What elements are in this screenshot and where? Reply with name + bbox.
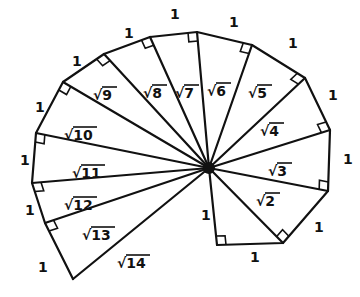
hypotenuse-label-sqrt-8: √8 xyxy=(143,85,167,101)
hypotenuse-label-sqrt-10: √10 xyxy=(64,127,97,143)
right-angle-marker-icon xyxy=(97,59,111,66)
unit-label: 1 xyxy=(35,99,45,115)
radial-line-12 xyxy=(45,168,209,223)
hypotenuse-label-sqrt-14: √14 xyxy=(117,255,150,271)
unit-edge-path xyxy=(32,32,330,279)
svg-text:√6: √6 xyxy=(207,83,226,99)
unit-label: 1 xyxy=(328,87,338,103)
unit-label: 1 xyxy=(288,35,298,51)
svg-text:√2: √2 xyxy=(256,193,275,209)
hypotenuse-label-sqrt-5: √5 xyxy=(248,85,272,101)
unit-label: 1 xyxy=(124,25,134,41)
hypotenuse-label-sqrt-13: √13 xyxy=(82,227,115,243)
hypotenuse-label-sqrt-9: √9 xyxy=(93,87,117,103)
svg-text:√7: √7 xyxy=(175,85,194,101)
hypotenuse-label-sqrt-11: √11 xyxy=(72,165,105,181)
hypotenuse-label-sqrt-7: √7 xyxy=(175,85,199,101)
svg-text:√13: √13 xyxy=(82,227,111,243)
svg-text:√8: √8 xyxy=(143,85,162,101)
unit-label: 1 xyxy=(72,53,82,69)
svg-text:√11: √11 xyxy=(72,165,101,181)
radial-line-5 xyxy=(209,45,252,168)
unit-label: 1 xyxy=(20,152,30,168)
svg-text:√10: √10 xyxy=(64,127,93,143)
unit-label: 1 xyxy=(201,207,211,223)
svg-text:√3: √3 xyxy=(268,163,287,179)
unit-label: 1 xyxy=(343,151,353,167)
hypotenuse-label-sqrt-3: √3 xyxy=(268,163,292,179)
right-angle-marker-icon xyxy=(319,180,328,189)
svg-text:√4: √4 xyxy=(260,123,279,139)
radial-line-11 xyxy=(32,168,209,183)
hypotenuse-label-sqrt-2: √2 xyxy=(256,193,280,209)
right-angle-marker-icon xyxy=(291,73,299,84)
unit-label: 1 xyxy=(250,249,260,265)
svg-text:√5: √5 xyxy=(248,85,267,101)
svg-text:√9: √9 xyxy=(93,87,112,103)
svg-text:√14: √14 xyxy=(117,255,146,271)
spiral-of-theodorus-diagram: 11111111111111 √2√3√4√5√6√7√8√9√10√11√12… xyxy=(0,0,360,297)
diagram-canvas: 11111111111111 √2√3√4√5√6√7√8√9√10√11√12… xyxy=(0,0,360,297)
center-point xyxy=(203,162,215,174)
svg-text:√12: √12 xyxy=(64,197,93,213)
unit-label: 1 xyxy=(170,6,180,22)
unit-edges xyxy=(32,32,330,279)
hypotenuse-label-sqrt-4: √4 xyxy=(260,123,284,139)
unit-label: 1 xyxy=(25,202,35,218)
right-angle-marker-icon xyxy=(277,230,289,237)
hypotenuse-label-sqrt-6: √6 xyxy=(207,83,231,99)
hypotenuse-label-sqrt-12: √12 xyxy=(64,197,97,213)
unit-label: 1 xyxy=(314,219,324,235)
unit-label: 1 xyxy=(38,259,48,275)
unit-label: 1 xyxy=(229,14,239,30)
